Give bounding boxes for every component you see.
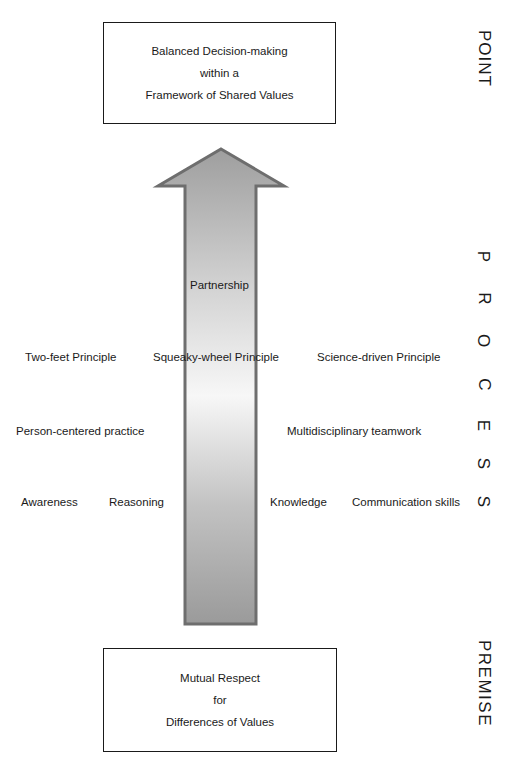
label-communication-skills: Communication skills [352, 495, 460, 509]
point-box: Balanced Decision-making within a Framew… [103, 22, 336, 124]
point-box-line: Balanced Decision-making [151, 40, 287, 62]
arrow-shape [158, 149, 284, 624]
label-two-feet-principle: Two-feet Principle [25, 350, 116, 364]
process-letter: C [476, 378, 493, 390]
side-label-point: POINT [474, 30, 494, 87]
label-reasoning: Reasoning [109, 495, 164, 509]
process-letter: S [476, 496, 493, 507]
point-box-line: within a [200, 62, 239, 84]
premise-box: Mutual Respect for Differences of Values [103, 648, 337, 752]
process-letter: S [476, 458, 493, 469]
label-knowledge: Knowledge [270, 495, 327, 509]
label-awareness: Awareness [21, 495, 78, 509]
premise-box-line: Differences of Values [166, 711, 274, 733]
premise-box-line: for [213, 689, 226, 711]
premise-box-line: Mutual Respect [180, 667, 260, 689]
label-person-centered-practice: Person-centered practice [16, 424, 144, 438]
side-label-premise: PREMISE [474, 640, 494, 727]
process-letter: O [475, 334, 492, 347]
point-box-line: Framework of Shared Values [145, 84, 293, 106]
arrow-label-partnership: Partnership [190, 278, 249, 292]
process-letter: R [476, 292, 493, 304]
label-squeaky-wheel-principle: Squeaky-wheel Principle [153, 350, 279, 364]
label-science-driven-principle: Science-driven Principle [317, 350, 440, 364]
label-multidisciplinary-teamwork: Multidisciplinary teamwork [287, 424, 421, 438]
process-letter: E [476, 420, 493, 431]
process-letter: P [476, 251, 493, 262]
